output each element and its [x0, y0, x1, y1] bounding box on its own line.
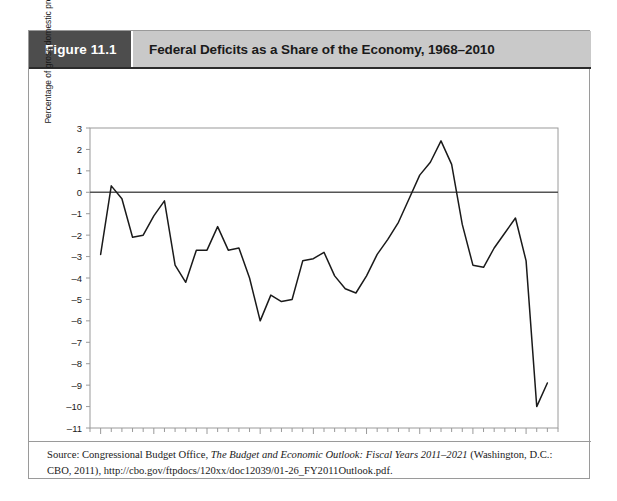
- figure-title-cell: Federal Deficits as a Share of the Econo…: [131, 31, 591, 67]
- y-tick-label: –6: [71, 315, 82, 326]
- figure-number-label: Figure 11.1: [45, 42, 117, 57]
- page-title: Federal Deficits as a Share of the Econo…: [149, 42, 495, 57]
- y-tick-label: 1: [77, 165, 82, 176]
- source-italic-title: The Budget and Economic Outlook: Fiscal …: [211, 449, 468, 460]
- y-tick-label: –2: [71, 230, 82, 241]
- y-tick-label: –8: [71, 358, 82, 369]
- source-note: Source: Congressional Budget Office, The…: [47, 447, 575, 478]
- figure-header: Figure 11.1 Federal Deficits as a Share …: [29, 31, 591, 69]
- y-tick-label: 2: [77, 144, 82, 155]
- y-tick-label: 3: [77, 123, 82, 134]
- chart-area: Percentage of gross domestic product 321…: [29, 69, 591, 441]
- line-chart: 3210–1–2–3–4–5–6–7–8–9–10–11196819731978…: [29, 69, 591, 441]
- y-tick-label: –3: [71, 251, 82, 262]
- y-tick-label: 0: [77, 187, 82, 198]
- y-tick-label: –5: [71, 294, 82, 305]
- figure-container: Figure 11.1 Federal Deficits as a Share …: [28, 30, 590, 479]
- plot-frame: [90, 128, 558, 428]
- y-tick-label: –7: [71, 337, 82, 348]
- y-tick-label: –10: [66, 401, 82, 412]
- source-prefix: Source: Congressional Budget Office,: [47, 449, 211, 460]
- source-divider: [29, 441, 591, 442]
- deficit-series-line: [101, 141, 548, 407]
- y-tick-label: –9: [71, 380, 82, 391]
- y-tick-label: –4: [71, 273, 82, 284]
- y-tick-label: –11: [67, 423, 82, 434]
- y-tick-label: –1: [71, 208, 82, 219]
